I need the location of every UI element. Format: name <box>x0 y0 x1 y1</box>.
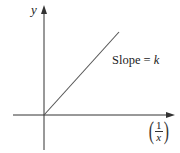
y-axis-label: y <box>31 2 37 18</box>
y-axis-arrow-icon <box>41 5 47 14</box>
fraction-denominator: x <box>156 132 161 143</box>
slope-label-text: Slope = <box>112 53 154 67</box>
x-axis-label: ( 1 x ) <box>147 118 170 144</box>
slope-variable: k <box>154 53 160 67</box>
open-paren: ( <box>149 118 154 144</box>
slope-line <box>44 32 119 115</box>
close-paren: ) <box>163 118 168 144</box>
slope-label: Slope = k <box>112 53 159 68</box>
fraction-numerator: 1 <box>156 120 162 131</box>
diagram-canvas: y Slope = k ( 1 x ) <box>0 0 180 153</box>
fraction: 1 x <box>155 120 163 143</box>
